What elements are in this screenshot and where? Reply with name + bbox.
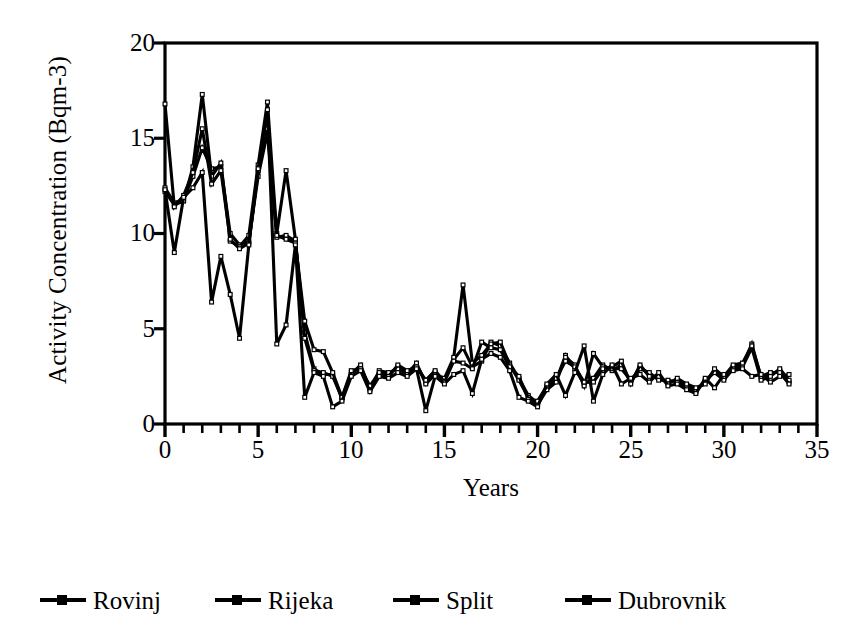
data-point (647, 380, 651, 384)
data-point (331, 371, 335, 375)
data-point (461, 361, 465, 365)
data-point (498, 355, 502, 359)
legend: Rovinj Rijeka Split Dubrovnik (0, 583, 865, 623)
plot-canvas (0, 0, 865, 641)
data-point (303, 336, 307, 340)
legend-label: Split (446, 588, 493, 613)
data-point (256, 167, 260, 171)
chart-figure: Activity Concentration (Bqm-3) 20 15 10 … (0, 0, 865, 641)
data-point (592, 399, 596, 403)
data-point (713, 367, 717, 371)
data-point (759, 373, 763, 377)
data-point (592, 380, 596, 384)
legend-label: Rovinj (93, 588, 161, 613)
data-point (573, 371, 577, 375)
data-point (163, 102, 167, 106)
data-point (377, 374, 381, 378)
data-point (228, 293, 232, 297)
data-point (331, 405, 335, 409)
data-point (228, 237, 232, 241)
data-point (396, 363, 400, 367)
data-point (321, 374, 325, 378)
data-point (275, 234, 279, 238)
data-point (713, 386, 717, 390)
data-point (191, 186, 195, 190)
data-point (675, 382, 679, 386)
data-point (294, 243, 298, 247)
data-point (620, 382, 624, 386)
data-point (238, 247, 242, 251)
data-point (415, 367, 419, 371)
plot-frame (165, 43, 817, 424)
data-point (703, 376, 707, 380)
data-point (722, 373, 726, 377)
data-point (405, 374, 409, 378)
legend-marker-icon (215, 593, 261, 607)
data-point (266, 108, 270, 112)
data-point (657, 371, 661, 375)
data-point (312, 348, 316, 352)
data-point (247, 243, 251, 247)
data-point (200, 146, 204, 150)
data-point (470, 392, 474, 396)
data-point (349, 374, 353, 378)
data-point (480, 357, 484, 361)
data-point (731, 369, 735, 373)
data-point (480, 340, 484, 344)
data-point (461, 369, 465, 373)
legend-marker-icon (565, 593, 611, 607)
data-point (526, 399, 530, 403)
data-point (172, 251, 176, 255)
data-point (424, 378, 428, 382)
data-point (685, 382, 689, 386)
data-point (610, 363, 614, 367)
data-point (685, 388, 689, 392)
data-point (564, 359, 568, 363)
data-point (461, 283, 465, 287)
data-point (601, 367, 605, 371)
data-point (200, 127, 204, 131)
data-point (210, 182, 214, 186)
data-point (405, 369, 409, 373)
data-point (210, 300, 214, 304)
data-point (629, 382, 633, 386)
data-point (489, 352, 493, 356)
data-point (769, 380, 773, 384)
data-point (731, 363, 735, 367)
data-point (778, 374, 782, 378)
data-point (470, 367, 474, 371)
data-point (536, 405, 540, 409)
data-point (582, 344, 586, 348)
data-point (182, 195, 186, 199)
legend-label: Rijeka (268, 588, 333, 613)
data-point (694, 392, 698, 396)
data-point (424, 409, 428, 413)
data-point (284, 169, 288, 173)
data-point (191, 171, 195, 175)
data-point (433, 374, 437, 378)
data-point (200, 93, 204, 97)
data-point (750, 374, 754, 378)
data-point (349, 369, 353, 373)
data-point (433, 369, 437, 373)
legend-marker-icon (40, 593, 86, 607)
data-point (284, 323, 288, 327)
data-point (312, 371, 316, 375)
data-point (787, 382, 791, 386)
legend-label: Dubrovnik (618, 588, 726, 613)
data-point (359, 369, 363, 373)
data-point (741, 361, 745, 365)
data-point (592, 352, 596, 356)
data-point (443, 382, 447, 386)
data-point (517, 374, 521, 378)
data-point (461, 346, 465, 350)
data-point (601, 373, 605, 377)
data-point (666, 384, 670, 388)
legend-entry-rovinj: Rovinj (40, 583, 161, 617)
data-point (675, 376, 679, 380)
data-point (368, 390, 372, 394)
data-point (396, 371, 400, 375)
data-point (750, 344, 754, 348)
data-point (266, 100, 270, 104)
data-point (163, 188, 167, 192)
